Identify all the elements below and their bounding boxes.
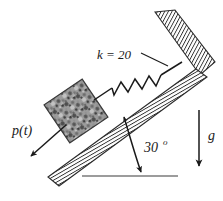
inclined-plane-diagram: k = 20 p(t) 30 o g xyxy=(0,0,223,201)
applied-force-arrow xyxy=(31,125,66,156)
figure-canvas: k = 20 p(t) 30 o g xyxy=(0,0,223,201)
leader-line xyxy=(141,53,168,66)
incline-angle-value: 30 xyxy=(143,140,158,155)
spring-stiffness-text: k = 20 xyxy=(97,47,132,62)
gravity-label: g xyxy=(208,128,215,143)
incline-angle-degree-symbol: o xyxy=(163,137,168,147)
spring-stiffness-label: k = 20 xyxy=(97,47,168,66)
applied-force-label: p(t) xyxy=(11,123,33,139)
mass-block xyxy=(44,79,108,143)
incline-angle-label: 30 o xyxy=(143,137,168,155)
support-wall xyxy=(155,10,215,75)
